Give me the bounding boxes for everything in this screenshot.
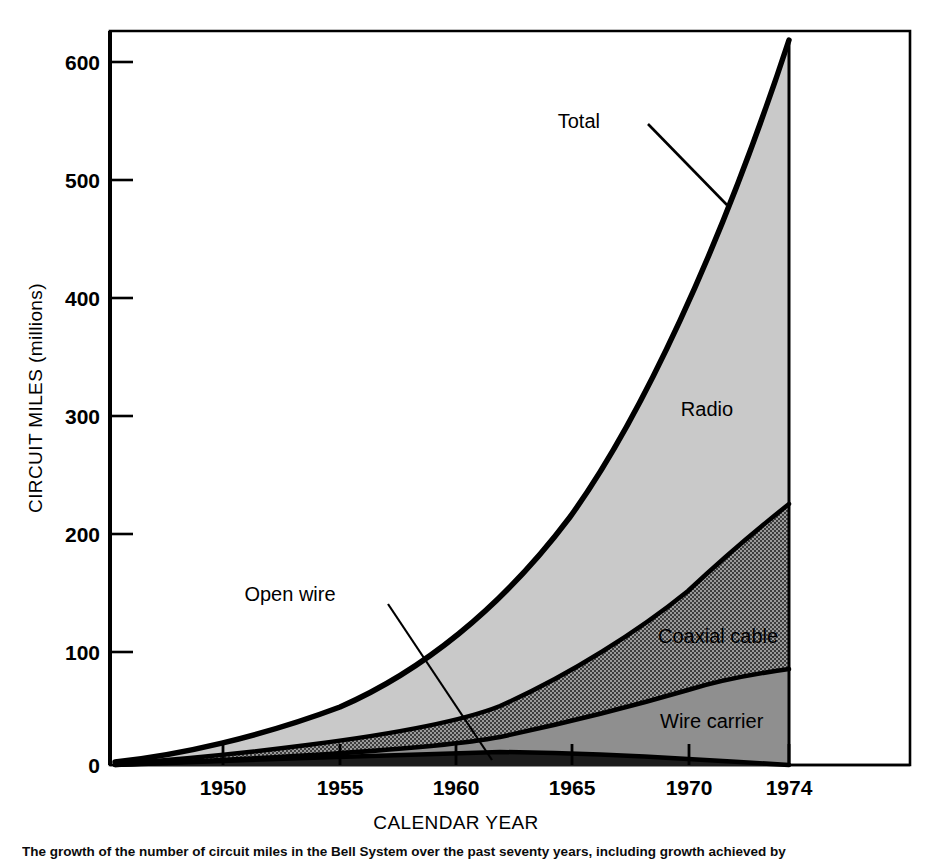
y-axis-title: CIRCUIT MILES (millions) — [25, 283, 46, 513]
series-label-coaxial-cable: Coaxial cable — [658, 625, 778, 647]
x-tick-label: 1950 — [200, 776, 247, 799]
x-tick-label: 1955 — [317, 776, 364, 799]
y-tick-label: 600 — [65, 51, 100, 74]
y-tick-label: 500 — [65, 169, 100, 192]
y-tick-label: 0 — [88, 754, 100, 777]
x-tick-label: 1965 — [549, 776, 596, 799]
x-tick-label: 1960 — [433, 776, 480, 799]
y-tick-label: 200 — [65, 523, 100, 546]
x-tick-label: 1974 — [766, 776, 813, 799]
chart-figure: 600 500 400 300 200 100 0 CIRCUIT MILES … — [0, 0, 932, 859]
y-tick-label: 300 — [65, 405, 100, 428]
series-label-wire-carrier: Wire carrier — [660, 710, 764, 732]
x-axis-title: CALENDAR YEAR — [373, 812, 538, 833]
x-tick-label: 1970 — [666, 776, 713, 799]
series-label-open-wire: Open wire — [244, 583, 335, 605]
series-label-total: Total — [558, 110, 600, 132]
figure-caption: The growth of the number of circuit mile… — [22, 843, 912, 859]
y-tick-label: 100 — [65, 641, 100, 664]
stacked-area-chart: 600 500 400 300 200 100 0 CIRCUIT MILES … — [0, 0, 932, 859]
series-label-radio: Radio — [681, 398, 733, 420]
y-tick-label: 400 — [65, 287, 100, 310]
